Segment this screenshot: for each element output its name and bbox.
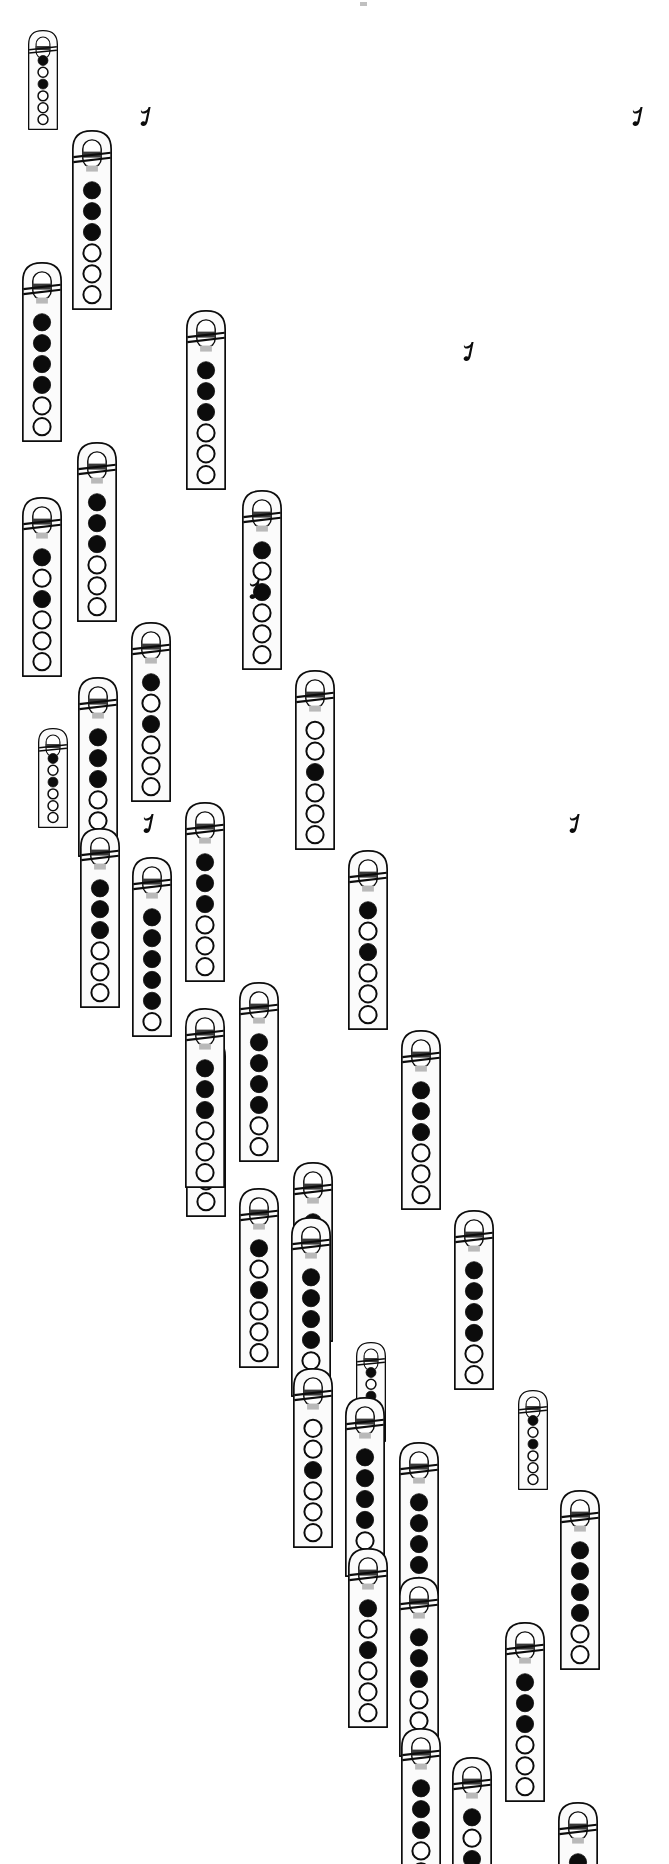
- finger-hole-5: [33, 397, 50, 414]
- finger-hole-6: [33, 418, 50, 435]
- whistle-fingering-diagram: [293, 1368, 669, 1548]
- fingering-row: [0, 728, 669, 1864]
- finger-hole-2: [304, 1441, 321, 1458]
- whistle-fingering-diagram: [185, 1008, 669, 1188]
- eighth-rest-icon: [247, 578, 263, 616]
- eighth-rest-icon: [141, 812, 157, 850]
- finger-hole-6: [359, 1704, 376, 1721]
- rest-glyph-path: [141, 107, 151, 126]
- finger-hole-5: [359, 1683, 376, 1700]
- finger-hole-4: [412, 1842, 429, 1859]
- finger-hole-1: [359, 1600, 376, 1617]
- finger-hole-1: [250, 1240, 267, 1257]
- finger-hole-6: [196, 1164, 213, 1181]
- whistle-window-tab: [199, 1044, 211, 1050]
- finger-hole-4: [304, 1482, 321, 1499]
- finger-hole-3: [412, 1821, 429, 1838]
- eighth-rest-icon: [138, 105, 154, 143]
- finger-hole-4: [33, 376, 50, 393]
- whistle-fingering-diagram: [348, 1548, 669, 1728]
- finger-hole-4: [38, 91, 48, 101]
- finger-hole-3: [38, 79, 48, 89]
- finger-hole-2: [359, 1621, 376, 1638]
- whistle-window-tab: [307, 1404, 319, 1410]
- finger-hole-1: [48, 754, 58, 764]
- whistle-fingering-diagram: [80, 828, 669, 1008]
- finger-hole-5: [250, 1323, 267, 1340]
- finger-hole-1: [91, 880, 108, 897]
- finger-hole-2: [33, 570, 50, 587]
- finger-hole-4: [83, 244, 100, 261]
- finger-hole-4: [196, 1122, 213, 1139]
- finger-hole-2: [83, 203, 100, 220]
- finger-hole-2: [196, 1081, 213, 1098]
- whistle-window-tab: [91, 478, 103, 484]
- finger-hole-4: [48, 789, 58, 799]
- finger-hole-3: [359, 1641, 376, 1658]
- finger-hole-2: [250, 1261, 267, 1278]
- whistle-window-tab: [415, 1764, 427, 1770]
- whistle-fingering-diagram: [22, 497, 669, 677]
- eighth-rest-icon: [567, 812, 583, 850]
- finger-hole-1: [33, 549, 50, 566]
- finger-hole-5: [91, 963, 108, 980]
- rest-glyph-path: [633, 107, 643, 126]
- whistle-window-tab: [36, 533, 48, 539]
- finger-hole-4: [33, 611, 50, 628]
- whistle-window-tab: [253, 1224, 265, 1230]
- whistle-fingering-diagram: [22, 262, 669, 442]
- whistle-window-tab: [36, 298, 48, 304]
- finger-hole-1: [38, 56, 48, 66]
- finger-hole-6: [91, 984, 108, 1001]
- finger-hole-4: [91, 942, 108, 959]
- finger-hole-3: [304, 1461, 321, 1478]
- eighth-rest-icon: [630, 105, 646, 143]
- finger-hole-1: [33, 314, 50, 331]
- finger-hole-5: [38, 103, 48, 113]
- finger-hole-2: [33, 335, 50, 352]
- finger-hole-3: [250, 1281, 267, 1298]
- finger-hole-6: [33, 653, 50, 670]
- finger-hole-6: [38, 115, 48, 125]
- finger-hole-3: [196, 1101, 213, 1118]
- faint-top-mark: [360, 2, 367, 6]
- rest-glyph-path: [250, 580, 260, 599]
- eighth-rest-icon: [461, 340, 477, 378]
- whistle-window-tab: [94, 864, 106, 870]
- finger-hole-3: [33, 355, 50, 372]
- finger-hole-6: [250, 1344, 267, 1361]
- finger-hole-3: [48, 777, 58, 787]
- whistle-window-tab: [362, 1584, 374, 1590]
- finger-hole-2: [38, 67, 48, 77]
- finger-hole-2: [48, 765, 58, 775]
- whistle-fingering-diagram: [401, 1728, 669, 1864]
- whistle-window-tab: [92, 713, 104, 719]
- finger-hole-6: [48, 813, 58, 823]
- finger-hole-5: [33, 632, 50, 649]
- rest-glyph-path: [144, 814, 154, 833]
- finger-hole-2: [91, 901, 108, 918]
- finger-hole-5: [48, 801, 58, 811]
- finger-hole-2: [412, 1801, 429, 1818]
- whistle-fingering-diagram: [28, 30, 669, 130]
- finger-hole-1: [412, 1780, 429, 1797]
- whistle-window-tab: [86, 166, 98, 172]
- finger-hole-1: [304, 1420, 321, 1437]
- finger-hole-1: [196, 1060, 213, 1077]
- finger-hole-3: [83, 223, 100, 240]
- finger-hole-6: [304, 1524, 321, 1541]
- finger-hole-3: [91, 921, 108, 938]
- finger-hole-5: [196, 1143, 213, 1160]
- finger-hole-5: [304, 1503, 321, 1520]
- whistle-fingering-diagram: [239, 1188, 669, 1368]
- rest-glyph-path: [570, 814, 580, 833]
- finger-hole-1: [83, 182, 100, 199]
- finger-hole-4: [359, 1662, 376, 1679]
- rest-glyph-path: [464, 342, 474, 361]
- finger-hole-3: [33, 590, 50, 607]
- finger-hole-4: [250, 1302, 267, 1319]
